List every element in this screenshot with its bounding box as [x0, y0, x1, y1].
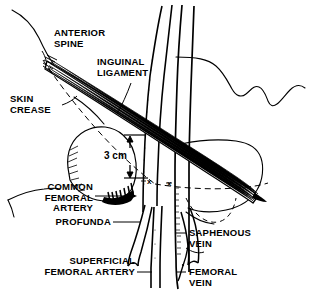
measurement-3cm: 3 cm	[104, 150, 127, 161]
label-profunda: PROFUNDA	[0, 217, 111, 228]
superficial-femoral-artery-wall1	[151, 207, 154, 288]
saphenous-vein-branch-wall2	[181, 212, 189, 265]
leader-anterior-spine	[42, 51, 46, 60]
superficial-femoral-artery-wall2	[160, 206, 162, 288]
common-femoral-artery-medial-wall	[157, 5, 172, 206]
vein-marker-dot	[182, 264, 184, 266]
anatomical-diagram: ANTERIOR SPINE SKIN CREASE INGUINAL LIGA…	[0, 0, 311, 291]
puncture-mark-vein: x	[167, 179, 171, 188]
label-anterior-spine: ANTERIOR SPINE	[54, 28, 105, 49]
vein-hatch	[176, 188, 181, 254]
diagram-artwork	[0, 0, 311, 291]
label-saphenous-vein: SAPHENOUS VEIN	[189, 228, 251, 249]
label-femoral-vein: FEMORAL VEIN	[189, 267, 237, 288]
puncture-mark-artery: x	[147, 177, 151, 186]
torso-left-contour	[12, 10, 53, 63]
label-superficial-femoral-artery: SUPERFICIAL FEMORAL ARTERY	[0, 256, 135, 277]
label-inguinal-ligament: INGUINAL LIGAMENT	[97, 57, 148, 78]
label-skin-crease: SKIN CREASE	[10, 94, 51, 115]
label-common-femoral-artery: COMMON FEMORAL ARTERY	[0, 182, 93, 214]
dimension-arrowhead-up	[127, 136, 133, 142]
right-flank-contour	[176, 57, 305, 106]
profunda-artery-wall2	[138, 207, 152, 266]
medial-thigh-curve	[186, 212, 214, 224]
